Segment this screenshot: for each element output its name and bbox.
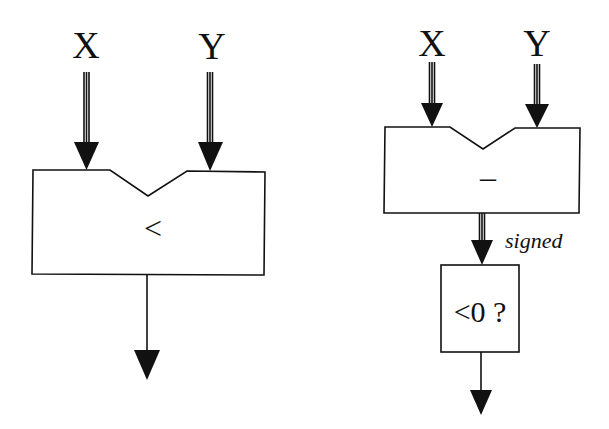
right-y-bus-arrow-icon (525, 64, 549, 128)
left-x-label: X (72, 24, 99, 66)
left-y-bus-arrow-icon (198, 72, 223, 171)
right-subtract-comparator: X Y – signed <0 ? (384, 22, 580, 415)
subtract-operator: – (479, 159, 497, 195)
left-output-arrow-icon (134, 275, 160, 380)
left-y-label: Y (198, 25, 225, 67)
signed-bus-arrow-icon (471, 213, 493, 265)
comparator-diagram: X Y < X Y (0, 0, 609, 429)
less-than-zero-test: <0 ? (454, 295, 507, 328)
left-comparator: X Y < (32, 24, 265, 380)
signed-annotation: signed (505, 228, 563, 253)
right-x-label: X (418, 22, 445, 64)
left-x-bus-arrow-icon (74, 72, 99, 170)
right-x-bus-arrow-icon (421, 62, 443, 127)
right-output-arrow-icon (470, 352, 492, 415)
less-than-operator: < (144, 210, 162, 246)
right-y-label: Y (523, 22, 550, 64)
